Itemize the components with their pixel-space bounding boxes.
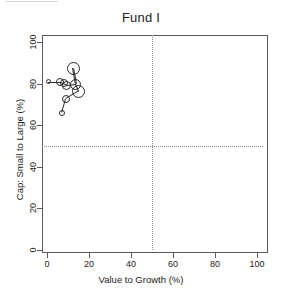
data-point xyxy=(46,79,51,84)
top-clipped-artifact: _________ xyxy=(0,0,282,9)
y-axis-title: Cap: Small to Large (%) xyxy=(14,85,25,215)
y-axis-tick-label: 60 xyxy=(28,116,38,134)
data-point xyxy=(56,78,64,86)
x-axis-tick xyxy=(89,253,90,258)
x-axis-tick xyxy=(131,253,132,258)
data-point xyxy=(72,85,85,98)
chart-root: _________ Fund I 02040608010002040608010… xyxy=(0,0,282,305)
y-axis-tick-label: 100 xyxy=(28,33,38,51)
x-axis-tick xyxy=(257,253,258,258)
reference-line-vertical xyxy=(152,35,153,250)
x-axis-tick-label: 80 xyxy=(210,259,220,269)
chart-title: Fund I xyxy=(0,10,282,25)
x-axis-title: Value to Growth (%) xyxy=(0,274,282,285)
reference-line-horizontal xyxy=(42,146,263,147)
y-axis-tick-label: 20 xyxy=(28,199,38,217)
x-axis-tick-label: 100 xyxy=(249,259,264,269)
x-axis-tick xyxy=(173,253,174,258)
x-axis-tick-label: 20 xyxy=(84,259,94,269)
x-axis-tick xyxy=(47,253,48,258)
plot-area xyxy=(47,42,257,250)
x-axis-tick xyxy=(215,253,216,258)
x-axis-tick-label: 60 xyxy=(168,259,178,269)
data-point xyxy=(59,110,65,116)
y-axis-tick-label: 40 xyxy=(28,158,38,176)
y-axis-tick-label: 0 xyxy=(28,241,38,259)
top-artifact-text: _________ xyxy=(6,0,58,2)
y-axis-tick-label: 80 xyxy=(28,75,38,93)
data-point xyxy=(67,62,80,75)
data-point xyxy=(62,95,70,103)
x-axis-tick-label: 40 xyxy=(126,259,136,269)
x-axis-tick-label: 0 xyxy=(44,259,49,269)
